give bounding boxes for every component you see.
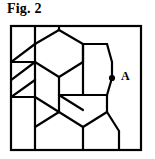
hex-edge-mid-left-diag-b (35, 62, 59, 77)
hex-edge-mid-upper-diag-b (59, 62, 83, 77)
hex-edge-bottom-right-diag (107, 112, 119, 131)
honeycomb-lattice-diagram: A (0, 0, 155, 159)
hex-edge-lower-left-diag (35, 112, 59, 127)
diagram-frame (11, 26, 141, 150)
hex-edge-left-diag-mid (11, 62, 35, 80)
point-a-marker-dot (109, 75, 115, 81)
figure-container: Fig. 2 A (0, 0, 155, 159)
hex-edge-upper-left-diag-a (11, 44, 35, 62)
hex-edge-upper-mid-diag-a (35, 30, 59, 44)
hex-edge-mid-right-diag-c (59, 95, 83, 110)
hex-edge-mid-lower-diag-c (35, 97, 59, 112)
hex-edge-lower-right-diag (83, 112, 107, 127)
hex-edge-lower-center-diag (59, 112, 83, 127)
hex-edge-right-top-a (107, 44, 112, 62)
lattice-edge-group (11, 26, 119, 150)
point-a-label: A (121, 69, 130, 83)
hex-edge-upper-right-diag-a (59, 30, 83, 44)
hex-edge-left-lower-diag (11, 80, 35, 97)
